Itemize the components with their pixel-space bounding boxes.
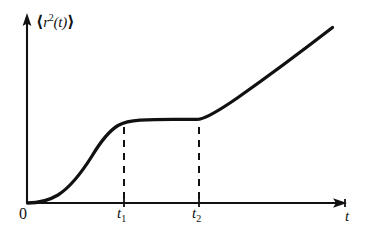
msd-figure: ⟨r2(t)⟩ 0 t t1 t2: [0, 0, 367, 240]
msd-curve: [28, 28, 333, 204]
x-axis-label: t: [345, 209, 349, 224]
y-axis-label-close-bracket: ⟩: [67, 12, 74, 31]
plot-canvas: [0, 0, 367, 240]
tick-label-t2: t2: [192, 206, 201, 221]
tick-label-t2-subscript: 2: [196, 213, 201, 224]
y-axis-label-argument: (t): [54, 14, 68, 30]
tick-label-t1-subscript: 1: [121, 213, 126, 224]
y-axis: [23, 13, 32, 203]
origin-label: 0: [19, 206, 27, 222]
tick-label-t1: t1: [117, 206, 126, 221]
x-axis: [27, 198, 347, 208]
y-axis-label: ⟨r2(t)⟩: [36, 14, 74, 30]
